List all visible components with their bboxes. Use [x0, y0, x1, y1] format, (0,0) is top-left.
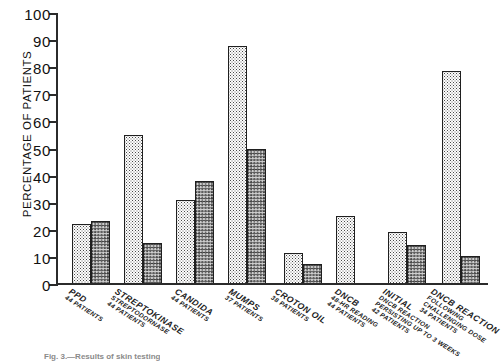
bar-group-ppd — [72, 14, 110, 283]
tick-label: 20 — [33, 222, 51, 239]
bar-series-container — [58, 14, 488, 283]
x-label-croton-oil: CROTON OIL38 PATIENTS — [269, 287, 327, 332]
bar-mumps-dark — [247, 149, 266, 284]
bar-dncb-48hr-light — [336, 216, 355, 283]
bar-candida-dark — [195, 181, 214, 283]
x-label-mumps: MUMPS37 PATIENTS — [223, 287, 268, 324]
tick-label: 90 — [33, 33, 51, 50]
bar-group-croton-oil — [284, 14, 322, 283]
bar-ppd-dark — [91, 221, 110, 283]
bar-dncb-persisting-dark — [407, 245, 426, 283]
bar-group-dncb-challenge — [442, 14, 480, 283]
bar-dncb-challenge-dark — [461, 256, 480, 283]
x-label-candida: CANDIDA44 PATIENTS — [169, 287, 214, 324]
bar-croton-oil-light — [284, 253, 303, 283]
y-axis-title: PERCENTAGE OF PATIENTS — [21, 19, 33, 249]
plot-area: 1009080706050403020100 — [56, 14, 488, 285]
tick-label: 60 — [33, 114, 51, 131]
tick-label: 100 — [24, 6, 51, 23]
figure-caption: Fig. 3.—Results of skin testing — [44, 352, 160, 361]
bar-streptokinase-dark — [143, 243, 162, 283]
tick-label: 50 — [33, 141, 51, 158]
tick-label: 10 — [33, 249, 51, 266]
bar-group-streptokinase — [124, 14, 162, 283]
tick-label: 30 — [33, 195, 51, 212]
x-label-ppd: PPD44 PATIENTS — [63, 287, 108, 324]
bar-group-dncb-48hr — [336, 14, 355, 283]
bar-ppd-light — [72, 224, 91, 283]
bar-candida-light — [176, 200, 195, 283]
bar-group-dncb-persisting — [388, 14, 426, 283]
bar-dncb-challenge-light — [442, 71, 461, 284]
tick-label: 40 — [33, 168, 51, 185]
tick-label: 80 — [33, 60, 51, 77]
bar-croton-oil-dark — [303, 264, 322, 283]
bar-group-candida — [176, 14, 214, 283]
bar-group-mumps — [228, 14, 266, 283]
tick-label: 70 — [33, 87, 51, 104]
x-axis-labels: PPD44 PATIENTSSTREPTOKINASESTREPTODORNAS… — [56, 287, 492, 361]
tick-label: 0 — [42, 277, 51, 294]
bar-streptokinase-light — [124, 135, 143, 283]
bar-mumps-light — [228, 46, 247, 283]
x-axis-line — [56, 283, 488, 285]
bar-dncb-persisting-light — [388, 232, 407, 283]
